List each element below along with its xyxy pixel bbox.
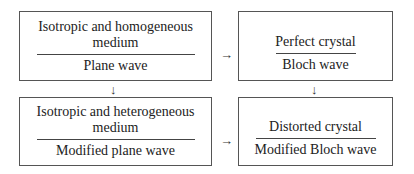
box-top-text: Perfect crystal [271,34,359,53]
right-arrow-icon: → [220,48,233,61]
box-top-text: Isotropic and homogeneous medium [27,19,205,54]
box-distorted-crystal: Distorted crystal Modified Bloch wave [238,97,393,166]
down-arrow-icon: ↓ [311,83,318,96]
box-top-text: Isotropic and heterogeneous medium [27,104,205,139]
box-bottom-text: Modified plane wave [56,140,175,159]
box-isotropic-homogeneous: Isotropic and homogeneous medium Plane w… [19,11,212,81]
box-bottom-text: Plane wave [83,55,147,74]
box-bottom-text: Bloch wave [282,54,348,73]
box-perfect-crystal: Perfect crystal Bloch wave [238,11,393,81]
down-arrow-icon: ↓ [110,83,117,96]
box-bottom-text: Modified Bloch wave [254,139,376,158]
box-top-text: Distorted crystal [265,119,366,138]
right-arrow-icon: → [220,134,233,147]
box-isotropic-heterogeneous: Isotropic and heterogeneous medium Modif… [19,97,212,166]
